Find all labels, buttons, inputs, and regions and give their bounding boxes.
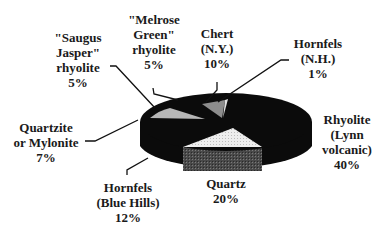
label-line: volcanic) [314,142,380,157]
label-hornfels-nh: Hornfels (N.H.) 1% [288,36,348,81]
label-quartzite-mylonite: Quartzite or Mylonite 7% [8,120,84,165]
label-line: Quartzite [8,120,84,135]
label-line: Hornfels [92,180,164,195]
label-line: Hornfels [288,36,348,51]
label-line: or Mylonite [8,135,84,150]
label-percent: 7% [8,150,84,165]
label-chert-ny: Chert (N.Y.) 10% [196,26,238,71]
leader-saugus [110,66,155,108]
label-line: (Blue Hills) [92,195,164,210]
label-rhyolite-lynn: Rhyolite (Lynn volcanic) 40% [314,112,380,172]
label-line: (Lynn [314,127,380,142]
label-saugus-jasper: "Saugus Jasper" rhyolite 5% [50,30,106,90]
leader-hornfels-bh [127,158,148,175]
label-line: Chert [196,26,238,41]
label-percent: 5% [50,75,106,90]
label-melrose-green: "Melrose Green" rhyolite 5% [124,12,184,72]
label-line: rhyolite [50,60,106,75]
label-percent: 5% [124,57,184,72]
label-line: Green" [124,27,184,42]
leader-quartzite [85,120,138,141]
label-hornfels-blue-hills: Hornfels (Blue Hills) 12% [92,180,164,225]
label-percent: 12% [92,210,164,225]
label-percent: 1% [288,66,348,81]
leader-melrose [153,88,178,100]
pie-top [140,93,312,151]
label-line: "Melrose [124,12,184,27]
label-line: Rhyolite [314,112,380,127]
label-line: (N.H.) [288,51,348,66]
label-line: "Saugus [50,30,106,45]
label-line: rhyolite [124,42,184,57]
label-percent: 40% [314,157,380,172]
label-percent: 10% [196,56,238,71]
label-quartz: Quartz 20% [203,176,249,206]
label-percent: 20% [203,191,249,206]
label-line: Jasper" [50,45,106,60]
label-line: Quartz [203,176,249,191]
label-line: (N.Y.) [196,41,238,56]
